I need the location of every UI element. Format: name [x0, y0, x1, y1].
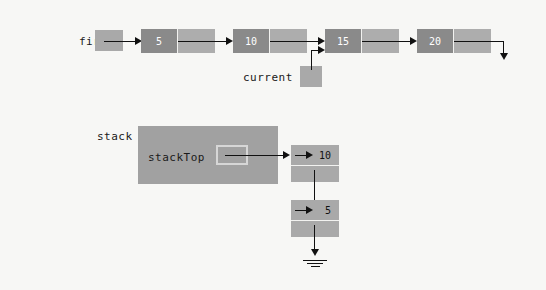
- arrowhead-current-to-node15: [318, 46, 325, 54]
- connector-node15-to-node20: [362, 41, 411, 42]
- diagram-canvas: first 5 10 15 20 current stack st: [0, 0, 546, 290]
- stack-node-5-link: [291, 221, 339, 237]
- node-20-data: 20: [417, 29, 454, 53]
- arrowhead-node15-to-node20: [410, 37, 417, 45]
- arrowhead-stacktop-to-node10: [283, 151, 290, 159]
- connector-node10-to-node15: [270, 41, 319, 42]
- node-10-data: 10: [233, 29, 270, 53]
- stacktop-label: stackTop: [148, 152, 205, 163]
- node-5-data: 5: [141, 29, 178, 53]
- stack-node-10: 10: [291, 145, 339, 183]
- arrowhead-node5-to-node10: [226, 37, 233, 45]
- arrowhead-stack-null: [311, 249, 319, 256]
- connector-current-vertical: [311, 50, 312, 70]
- connector-node20-to-null: [454, 41, 504, 42]
- stack-node-5: 5: [291, 200, 339, 238]
- arrowhead-inner-node10: [306, 151, 313, 159]
- connector-first-to-node5: [104, 41, 137, 42]
- connector-node5-to-node10: [178, 41, 227, 42]
- stack-node-10-link: [291, 166, 339, 182]
- arrowhead-node10-to-node15: [318, 37, 325, 45]
- ground-null-symbol: [303, 258, 327, 267]
- stack-label: stack: [97, 131, 133, 142]
- connector-stacktop-to-node10: [225, 155, 285, 156]
- node-15-data: 15: [325, 29, 362, 53]
- arrowhead-inner-node5: [306, 206, 313, 214]
- arrowhead-node20-null: [500, 53, 508, 60]
- current-label: current: [243, 72, 293, 83]
